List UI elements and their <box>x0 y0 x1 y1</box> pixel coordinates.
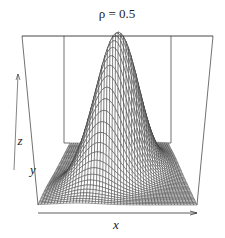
surface-facet <box>88 168 91 175</box>
surface-facet <box>193 204 197 205</box>
surface-facet <box>100 176 103 183</box>
z-axis-label: z <box>16 133 22 148</box>
surface-facet <box>97 143 100 153</box>
surface-facet <box>104 76 107 88</box>
surface-facet <box>149 204 152 205</box>
surface-facet <box>97 168 100 176</box>
surface-facet <box>98 202 101 204</box>
surface-facet <box>143 204 146 205</box>
surface-facet <box>91 174 94 180</box>
surface-facet <box>108 203 111 205</box>
surface-facet <box>107 99 110 113</box>
surface-facet <box>127 203 130 205</box>
surface-facet <box>84 180 87 185</box>
surface-facet <box>83 196 86 199</box>
surface-facet <box>93 180 96 186</box>
surface-facet <box>101 99 104 111</box>
surface-facet <box>91 152 94 161</box>
surface-facet <box>124 203 127 205</box>
surface-facet <box>107 76 110 88</box>
chart-title: ρ = 0.5 <box>99 6 136 21</box>
surface-facet <box>87 189 90 193</box>
surface-facet <box>93 196 96 199</box>
surface-facet <box>162 204 166 205</box>
surface-facet <box>80 196 83 199</box>
surface-facet <box>137 204 140 205</box>
surface-facet <box>104 87 107 99</box>
surface-facet <box>93 190 96 194</box>
surface-facet <box>110 56 113 66</box>
surface-facet <box>84 185 87 189</box>
surface-facet <box>98 132 101 142</box>
surface-facet <box>102 202 105 204</box>
surface-facet <box>100 161 103 170</box>
surface-facet <box>105 202 108 204</box>
surface-facet <box>103 133 106 145</box>
surface-facet <box>77 193 80 196</box>
surface-facet <box>70 199 74 201</box>
surface-facet <box>89 196 92 199</box>
surface-facet <box>90 193 93 196</box>
surface-facet <box>74 193 77 196</box>
surface-facet <box>96 186 99 191</box>
surface-facet <box>81 189 84 193</box>
surface-facet <box>94 174 97 180</box>
surface-facet <box>95 202 98 204</box>
surface-facet <box>92 201 95 203</box>
surface-facet <box>104 122 107 135</box>
surface-facet <box>87 185 90 189</box>
box-front-right-edge <box>197 36 213 205</box>
surface-facet <box>83 193 86 196</box>
surface-facet <box>79 201 83 203</box>
surface-facet <box>94 160 97 168</box>
surface-facet <box>107 87 110 100</box>
surface-facet <box>97 175 100 182</box>
surface-facet <box>87 193 90 196</box>
surface-facet <box>96 181 99 187</box>
box-back-right-edge <box>168 36 171 143</box>
surface-facet <box>83 199 86 202</box>
surface-facet <box>101 122 104 133</box>
surface-facet <box>94 168 97 175</box>
surface-facet <box>100 143 103 154</box>
surface-facet <box>77 196 80 199</box>
surface-facet <box>91 168 94 175</box>
surface-facet <box>80 193 83 196</box>
surface-facet <box>155 204 158 205</box>
surface-facet <box>152 204 156 205</box>
surface-facet <box>90 180 93 185</box>
surface-facet <box>101 110 104 122</box>
surface-facet <box>77 199 81 201</box>
surface-facet <box>140 204 143 205</box>
box-back-left-edge <box>64 36 70 143</box>
surface-facet <box>104 99 107 111</box>
surface-facet <box>88 174 91 180</box>
surface-facet <box>93 193 96 196</box>
surface-facet <box>101 132 104 143</box>
surface-facet <box>91 160 94 168</box>
surface-facet <box>94 152 97 161</box>
z-axis-arrow <box>14 74 18 170</box>
surface-facet <box>80 199 83 201</box>
surface-facet <box>159 204 162 205</box>
surface-facet <box>95 143 98 153</box>
surface-facet <box>107 65 110 76</box>
surface-facet <box>98 122 101 133</box>
surface-facet <box>133 204 136 205</box>
surface-facet <box>97 160 100 168</box>
surface-facet <box>104 110 107 123</box>
x-axis-label: x <box>112 217 119 232</box>
surface-plot: ρ = 0.5 x y z <box>0 0 225 238</box>
surface-facet <box>84 189 87 193</box>
surface-facet <box>98 111 101 123</box>
surface-facet <box>110 47 113 56</box>
surface-mesh <box>38 32 197 205</box>
surface-facet <box>100 169 103 177</box>
surface-facet <box>73 201 77 203</box>
y-axis-label: y <box>28 162 36 177</box>
surface-facet <box>97 152 100 161</box>
surface-facet <box>114 203 117 205</box>
surface-facet <box>87 180 90 185</box>
surface-facet <box>86 199 89 202</box>
surface-facet <box>93 185 96 190</box>
